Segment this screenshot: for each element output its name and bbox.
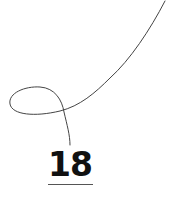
curve-path (10, 1, 165, 145)
figure-number: 18 (46, 148, 94, 182)
number-underline (48, 184, 93, 185)
